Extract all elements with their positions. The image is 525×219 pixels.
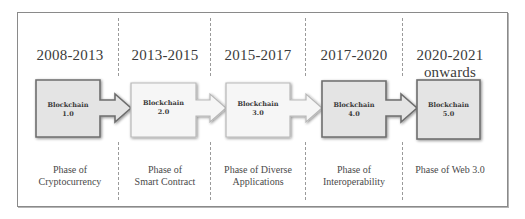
phase-3-line1: Phase of Diverse xyxy=(211,164,305,176)
block-label-1: Blockchain 1.0 xyxy=(36,101,100,119)
phase-description-2: Phase of Smart Contract xyxy=(120,164,210,188)
block-4-version: 4.0 xyxy=(322,110,386,119)
block-1-title: Blockchain xyxy=(36,101,100,110)
phase-description-4: Phase of Interoperability xyxy=(309,164,399,188)
phase-2-line2: Smart Contract xyxy=(120,176,210,188)
block-label-2: Blockchain 2.0 xyxy=(131,99,196,117)
block-1-version: 1.0 xyxy=(36,110,100,119)
phase-description-5: Phase of Web 3.0 xyxy=(404,164,496,176)
phase-1-line2: Cryptocurrency xyxy=(25,176,115,188)
block-3-title: Blockchain xyxy=(226,100,290,109)
phase-4-line1: Phase of xyxy=(309,164,399,176)
phase-1-line1: Phase of xyxy=(25,164,115,176)
phase-3-line2: Applications xyxy=(211,176,305,188)
phase-description-3: Phase of Diverse Applications xyxy=(211,164,305,188)
block-5-version: 5.0 xyxy=(417,110,480,119)
phase-description-1: Phase of Cryptocurrency xyxy=(25,164,115,188)
block-5-title: Blockchain xyxy=(417,101,480,110)
block-label-4: Blockchain 4.0 xyxy=(322,101,386,119)
block-4-title: Blockchain xyxy=(322,101,386,110)
phase-4-line2: Interoperability xyxy=(309,176,399,188)
block-2-version: 2.0 xyxy=(131,108,196,117)
block-3-version: 3.0 xyxy=(226,109,290,118)
block-label-5: Blockchain 5.0 xyxy=(417,101,480,119)
block-label-3: Blockchain 3.0 xyxy=(226,100,290,118)
block-2-title: Blockchain xyxy=(131,99,196,108)
phase-2-line1: Phase of xyxy=(120,164,210,176)
phase-5-line1: Phase of Web 3.0 xyxy=(404,164,496,176)
